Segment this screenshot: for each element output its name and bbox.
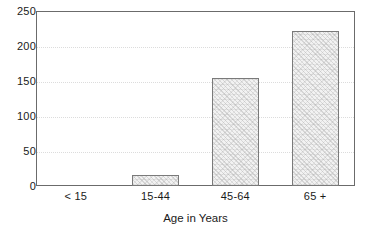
- bar-slot-65-plus[interactable]: [276, 11, 355, 186]
- bars-layer: [36, 11, 355, 186]
- bar-slot-under-15[interactable]: [36, 11, 115, 186]
- x-axis-title: Age in Years: [36, 211, 355, 225]
- x-tick-label-65-plus: 65 +: [276, 190, 355, 203]
- y-tick-label: 200: [4, 41, 36, 52]
- x-tick-label-15-44: 15-44: [116, 190, 195, 203]
- y-tick-label: 100: [4, 111, 36, 122]
- bar-slot-45-64[interactable]: [196, 11, 275, 186]
- y-tick-label: 150: [4, 76, 36, 87]
- bar-45-64[interactable]: [212, 78, 259, 186]
- y-tick-label: 0: [4, 181, 36, 192]
- y-tick-label: 250: [4, 6, 36, 17]
- bar-65-plus[interactable]: [292, 31, 339, 186]
- x-tick-label-under-15: < 15: [36, 190, 115, 203]
- bar-chart: 250 200 150 100 50 0 < 15 15-44 45-64 65…: [0, 0, 365, 234]
- bar-slot-15-44[interactable]: [116, 11, 195, 186]
- y-tick-label: 50: [4, 146, 36, 157]
- y-axis: 250 200 150 100 50 0: [0, 0, 36, 234]
- x-tick-label-45-64: 45-64: [196, 190, 275, 203]
- bar-15-44[interactable]: [132, 175, 179, 186]
- x-axis: < 15 15-44 45-64 65 +: [36, 190, 355, 203]
